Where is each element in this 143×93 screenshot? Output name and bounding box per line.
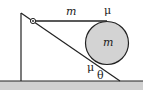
angle-label: θ	[97, 70, 104, 81]
ground	[0, 81, 143, 90]
string-mass-label: m	[66, 6, 76, 17]
top-friction-label: μ	[104, 5, 111, 16]
incline-friction-label: μ	[87, 62, 94, 73]
physics-diagram: m μ m μ θ	[0, 0, 143, 93]
pulley-axle	[32, 20, 34, 22]
ball-mass-label: m	[103, 37, 113, 48]
